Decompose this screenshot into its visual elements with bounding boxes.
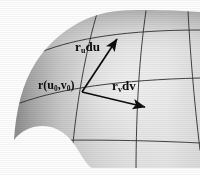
label-rv-dv: rvdv — [112, 79, 136, 94]
label-rv-differential: dv — [122, 78, 136, 93]
label-r-close-paren: ) — [70, 78, 74, 92]
label-r-arg1: u — [47, 78, 54, 92]
surface-tangent-vectors-figure: rudu r(u0,v0) rvdv — [0, 0, 200, 175]
label-ru-du: rudu — [75, 40, 100, 55]
label-ru-differential: du — [85, 39, 100, 54]
surface-diagram-svg — [0, 0, 200, 175]
label-r-point: r(u0,v0) — [38, 79, 74, 93]
